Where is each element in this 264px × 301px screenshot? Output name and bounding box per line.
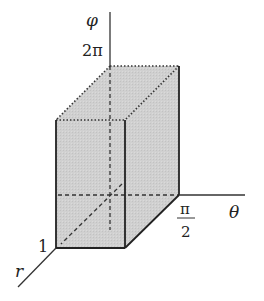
theta-axis-label: θ xyxy=(229,202,239,222)
r-tick-label: 1 xyxy=(38,237,48,256)
box-front-face xyxy=(56,120,125,248)
theta-tick-numerator: π xyxy=(180,200,190,218)
theta-tick-denominator: 2 xyxy=(181,223,191,241)
r-axis xyxy=(18,248,56,287)
phi-tick-label: 2π xyxy=(82,41,103,60)
r-axis-label: r xyxy=(15,261,24,281)
phi-axis-label: φ xyxy=(86,10,98,30)
coordinate-box-diagram: φ 2π θ π 2 1 r xyxy=(0,0,264,301)
